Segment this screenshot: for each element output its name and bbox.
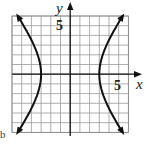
- side-mark: b: [0, 128, 6, 140]
- y-axis-arrow-icon: [67, 2, 73, 10]
- x-tick-label-5: 5: [114, 78, 121, 94]
- y-tick-label-5: 5: [56, 18, 63, 34]
- x-axis-label: x: [136, 76, 143, 93]
- y-axis-label: y: [56, 0, 63, 17]
